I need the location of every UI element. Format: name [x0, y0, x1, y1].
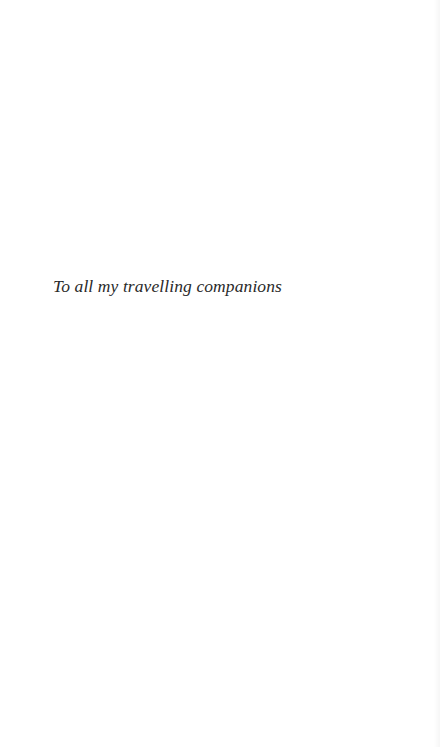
- page-edge-shadow: [434, 0, 440, 747]
- book-page: To all my travelling companions: [0, 0, 440, 747]
- dedication-text: To all my travelling companions: [53, 275, 282, 297]
